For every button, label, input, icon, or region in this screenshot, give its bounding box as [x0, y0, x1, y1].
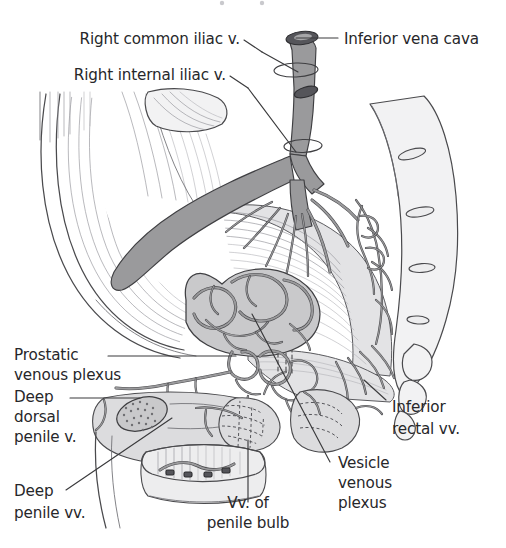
label-vv-of-penile-bulb-line-2: penile bulb	[207, 514, 290, 532]
bladder-body	[185, 269, 320, 356]
label-deep-penile-vv-line-1: Deep	[14, 482, 53, 500]
label-deep-dorsal-penile-v-line-3: penile v.	[14, 428, 77, 446]
label-vesicle-venous-plexus-line-2: venous	[338, 474, 392, 492]
label-vesicle-venous-plexus: Vesicle venous plexus	[338, 454, 392, 512]
urinary-bladder	[185, 269, 320, 356]
label-vesicle-venous-plexus-line-1: Vesicle	[338, 454, 390, 472]
label-prostatic-venous-plexus-line-1: Prostatic	[14, 346, 78, 364]
label-inferior-vena-cava: Inferior vena cava	[344, 30, 479, 48]
label-right-internal-iliac-v: Right internal iliac v.	[74, 66, 226, 84]
label-deep-dorsal-penile-v-line-2: dorsal	[14, 408, 60, 426]
label-right-common-iliac-line-1: Right common iliac v.	[80, 30, 240, 48]
figure-svg: Right common iliac v. Right internal ili…	[0, 0, 506, 548]
label-inferior-vena-cava-line-1: Inferior vena cava	[344, 30, 479, 48]
anatomical-figure: Right common iliac v. Right internal ili…	[0, 0, 506, 548]
label-prostatic-venous-plexus-line-2: venous plexus	[14, 366, 121, 384]
label-vesicle-venous-plexus-line-3: plexus	[338, 494, 387, 512]
label-inferior-rectal-vv-line-2: rectal vv.	[392, 420, 460, 438]
label-deep-penile-vv-line-2: penile vv.	[14, 504, 85, 522]
label-right-internal-iliac-line-1: Right internal iliac v.	[74, 66, 226, 84]
label-vv-of-penile-bulb-line-1: Vv. of	[227, 494, 269, 512]
label-deep-dorsal-penile-v-line-1: Deep	[14, 388, 53, 406]
label-right-common-iliac-v: Right common iliac v.	[80, 30, 240, 48]
label-inferior-rectal-vv-line-1: Inferior	[392, 398, 447, 416]
